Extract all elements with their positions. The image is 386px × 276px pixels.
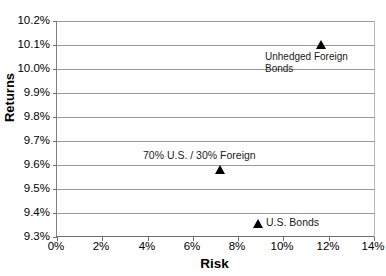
x-tick-label: 4%: [125, 241, 169, 253]
gridline-9.5: [57, 189, 374, 190]
x-tick-label: 8%: [215, 241, 259, 253]
gridline-9.8: [57, 117, 374, 118]
y-tick-mark: [53, 189, 57, 190]
x-tick-label: 10%: [260, 241, 304, 253]
plot-area: Unhedged Foreign Bonds 70% U.S. / 30% Fo…: [56, 21, 375, 237]
x-axis-title: Risk: [56, 256, 373, 271]
x-tick-label: 6%: [170, 241, 214, 253]
y-tick-mark: [53, 213, 57, 214]
annotation-us-bonds: U.S. Bonds: [266, 217, 319, 229]
data-point-70-30[interactable]: [215, 165, 225, 174]
data-point-us-bonds[interactable]: [253, 219, 263, 228]
gridline-10.2: [57, 21, 374, 22]
y-tick-mark: [53, 93, 57, 94]
chart-title-remnant: [56, 0, 296, 5]
y-tick-mark: [53, 141, 57, 142]
y-axis-title: Returns: [2, 53, 17, 143]
y-tick-label: 9.5%: [2, 183, 50, 195]
annotation-unhedged-foreign-bonds: Unhedged Foreign Bonds: [265, 51, 348, 74]
x-axis-line: [57, 236, 374, 237]
risk-return-scatter-chart: 10.2% 10.1% 10.0% 9.9% 9.8% 9.7% 9.6% 9.…: [0, 0, 386, 276]
y-tick-label: 9.4%: [2, 207, 50, 219]
y-tick-mark: [53, 117, 57, 118]
y-tick-label: 10.2%: [2, 15, 50, 27]
y-tick-mark: [53, 165, 57, 166]
gridline-9.4: [57, 213, 374, 214]
x-tick-label: 12%: [306, 241, 350, 253]
gridline-9.9: [57, 93, 374, 94]
gridline-10.1: [57, 45, 374, 46]
y-tick-mark: [53, 45, 57, 46]
y-tick-label: 10.1%: [2, 39, 50, 51]
x-tick-label: 2%: [79, 241, 123, 253]
gridline-9.7: [57, 141, 374, 142]
y-tick-label: 9.6%: [2, 159, 50, 171]
annotation-70-30: 70% U.S. / 30% Foreign: [143, 150, 256, 162]
data-point-unhedged-foreign-bonds[interactable]: [316, 40, 326, 49]
y-tick-mark: [53, 21, 57, 22]
y-tick-mark: [53, 69, 57, 70]
x-tick-label: 0%: [34, 241, 78, 253]
x-tick-label: 14%: [351, 241, 386, 253]
